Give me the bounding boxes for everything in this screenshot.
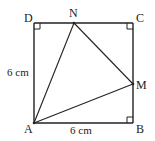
dimension-bottom: 6 cm: [70, 124, 92, 136]
label-n: N: [69, 6, 78, 20]
geometry-diagram: D N C M A B 6 cm 6 cm: [0, 0, 155, 141]
label-m: M: [136, 78, 147, 92]
right-angle-mark-d: [34, 23, 40, 29]
segment-am: [34, 84, 133, 123]
vertex-dot-n: [73, 22, 75, 24]
label-b: B: [136, 122, 144, 136]
vertex-dot-a: [33, 122, 36, 125]
vertex-dot-m: [132, 83, 135, 86]
right-angle-mark-b: [127, 117, 133, 123]
label-c: C: [136, 11, 144, 25]
segment-an: [34, 23, 74, 123]
segment-nm: [74, 23, 133, 84]
label-d: D: [24, 11, 33, 25]
dimension-left: 6 cm: [7, 66, 29, 78]
label-a: A: [24, 122, 33, 136]
right-angle-mark-c: [127, 23, 133, 29]
